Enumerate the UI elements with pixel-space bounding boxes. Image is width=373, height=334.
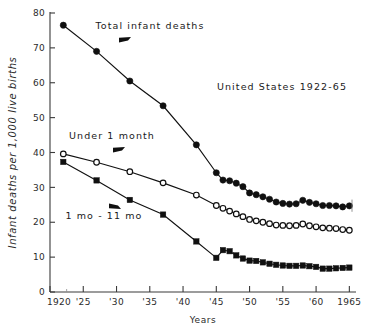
data-point-filled-square: [287, 263, 292, 268]
data-point-filled-square: [293, 263, 298, 268]
data-point-filled-circle: [300, 197, 306, 203]
x-tick-label: 1920: [47, 297, 71, 307]
x-tick-label: '55: [275, 297, 290, 307]
infant-mortality-line-chart: 010203040506070801920'25'30'35'40'45'50'…: [0, 0, 373, 334]
y-tick-label: 80: [33, 8, 45, 18]
data-point-filled-square: [320, 266, 325, 271]
arrow-total-infant-deaths-icon: [119, 37, 131, 43]
data-point-filled-circle: [227, 178, 233, 184]
data-point-open-circle: [214, 203, 220, 209]
y-tick-label: 60: [33, 78, 45, 88]
data-point-filled-square: [280, 263, 285, 268]
data-point-open-circle: [227, 208, 233, 214]
x-axis-title: Years: [189, 315, 217, 325]
data-point-open-circle: [267, 221, 273, 227]
data-point-filled-square: [347, 265, 352, 270]
data-point-filled-circle: [60, 22, 66, 28]
y-tick-label: 20: [33, 217, 45, 227]
x-tick-label: '35: [142, 297, 157, 307]
data-point-filled-square: [313, 264, 318, 269]
data-point-filled-circle: [273, 199, 279, 205]
annotation-under-1-month: Under 1 month: [69, 130, 155, 141]
data-point-filled-square: [247, 258, 252, 263]
annotation-1mo-11mo: 1 mo - 11 mo: [66, 210, 143, 221]
data-point-filled-circle: [213, 170, 219, 176]
data-point-filled-square: [220, 247, 225, 252]
data-point-open-circle: [307, 223, 313, 229]
y-axis-title: Infant deaths per 1,000 live births: [7, 57, 18, 249]
y-tick-label: 50: [33, 113, 45, 123]
data-point-open-circle: [127, 169, 133, 175]
chart-title: United States 1922-65: [217, 81, 347, 92]
data-point-open-circle: [94, 159, 100, 165]
series-line: [63, 25, 349, 207]
data-point-open-circle: [260, 219, 266, 225]
data-point-filled-circle: [160, 103, 166, 109]
data-point-open-circle: [61, 151, 67, 157]
figure-caption: [0, 327, 373, 334]
y-tick-label: 0: [39, 287, 45, 297]
x-tick-label: 1965: [337, 297, 361, 307]
data-point-filled-square: [260, 260, 265, 265]
data-point-filled-square: [160, 212, 165, 217]
data-point-filled-circle: [306, 199, 312, 205]
arrow-under-1-month-icon: [113, 147, 125, 153]
x-tick-label: '45: [209, 297, 224, 307]
data-point-filled-square: [340, 265, 345, 270]
data-point-open-circle: [247, 217, 253, 223]
arrow-1mo-11mo-icon: [109, 203, 121, 209]
y-tick-label: 40: [33, 148, 45, 158]
data-point-filled-circle: [246, 190, 252, 196]
data-point-filled-circle: [240, 184, 246, 190]
data-point-filled-square: [267, 261, 272, 266]
data-point-filled-square: [194, 239, 199, 244]
data-point-filled-circle: [333, 203, 339, 209]
data-point-open-circle: [220, 206, 226, 212]
data-point-filled-square: [234, 253, 239, 258]
data-point-open-circle: [333, 226, 339, 232]
data-point-open-circle: [253, 218, 259, 224]
data-point-filled-circle: [320, 202, 326, 208]
data-point-filled-square: [254, 258, 259, 263]
data-point-filled-square: [127, 197, 132, 202]
data-point-filled-circle: [293, 201, 299, 207]
y-tick-label: 70: [33, 43, 45, 53]
data-point-filled-circle: [313, 201, 319, 207]
data-point-filled-circle: [286, 201, 292, 207]
x-tick-label: '40: [176, 297, 191, 307]
data-point-filled-circle: [266, 196, 272, 202]
data-point-filled-square: [273, 262, 278, 267]
data-point-filled-circle: [280, 200, 286, 206]
data-point-filled-square: [94, 178, 99, 183]
data-point-filled-square: [327, 266, 332, 271]
data-point-open-circle: [300, 221, 306, 227]
data-point-filled-square: [300, 263, 305, 268]
data-point-open-circle: [160, 180, 166, 186]
data-point-open-circle: [233, 211, 239, 217]
chart-figure: 010203040506070801920'25'30'35'40'45'50'…: [0, 0, 373, 334]
data-point-open-circle: [273, 222, 279, 228]
x-tick-label: '60: [309, 297, 324, 307]
x-tick-label: '50: [242, 297, 257, 307]
annotation-total-infant-deaths: Total infant deaths: [94, 20, 204, 31]
data-point-open-circle: [287, 223, 293, 229]
data-point-open-circle: [347, 227, 353, 233]
series-1: [60, 22, 352, 210]
data-point-filled-circle: [193, 142, 199, 148]
data-point-filled-square: [214, 255, 219, 260]
data-point-open-circle: [293, 223, 299, 229]
data-point-filled-circle: [127, 78, 133, 84]
data-point-filled-circle: [220, 177, 226, 183]
data-point-filled-circle: [260, 194, 266, 200]
data-point-filled-circle: [93, 48, 99, 54]
data-point-filled-circle: [326, 202, 332, 208]
x-tick-label: '25: [76, 297, 91, 307]
data-point-open-circle: [320, 225, 326, 231]
data-point-open-circle: [340, 227, 346, 233]
data-point-open-circle: [194, 192, 200, 198]
data-point-filled-circle: [253, 192, 259, 198]
data-point-open-circle: [313, 224, 319, 230]
x-tick-label: '30: [109, 297, 124, 307]
data-point-open-circle: [327, 225, 333, 231]
data-point-filled-square: [333, 266, 338, 271]
